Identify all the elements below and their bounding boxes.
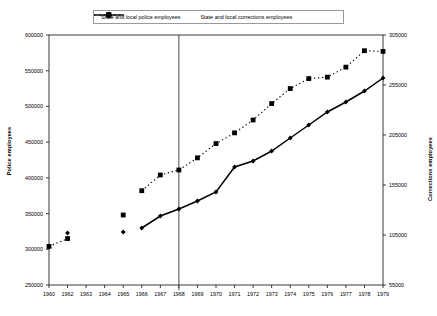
y-left-tick-label: 300000 — [9, 246, 43, 252]
data-point-marker — [306, 76, 311, 81]
y-right-tick-label: 55000 — [389, 282, 423, 288]
data-point-marker — [362, 48, 367, 53]
data-point-marker — [195, 155, 200, 160]
data-point-marker — [121, 230, 126, 235]
data-point-marker — [214, 141, 219, 146]
data-point-marker — [325, 75, 330, 80]
y-right-tick-label: 155000 — [389, 182, 423, 188]
data-point-marker — [381, 49, 386, 54]
data-point-marker — [47, 244, 52, 249]
chart-container: State and local police employees State a… — [0, 0, 437, 316]
data-point-marker — [251, 118, 256, 123]
data-point-marker — [288, 86, 293, 91]
plot-frame — [49, 35, 383, 285]
y-left-tick-label: 250000 — [9, 282, 43, 288]
y-right-tick-label: 205000 — [389, 132, 423, 138]
y-left-tick-label: 500000 — [9, 103, 43, 109]
chart-plot-area — [0, 0, 437, 316]
data-point-marker — [158, 173, 163, 178]
data-point-marker — [176, 168, 181, 173]
data-point-marker — [195, 199, 200, 204]
y-left-tick-label: 600000 — [9, 32, 43, 38]
y-left-tick-label: 450000 — [9, 139, 43, 145]
x-tick-label: 1979 — [372, 291, 394, 297]
y-right-tick-label: 305000 — [389, 32, 423, 38]
data-point-marker — [269, 101, 274, 106]
y-left-tick-label: 550000 — [9, 68, 43, 74]
y-left-tick-label: 400000 — [9, 175, 43, 181]
data-point-marker — [176, 207, 181, 212]
data-point-marker — [343, 65, 348, 70]
data-point-marker — [139, 188, 144, 193]
data-point-marker — [121, 213, 126, 218]
y-left-tick-label: 350000 — [9, 211, 43, 217]
y-right-tick-label: 105000 — [389, 232, 423, 238]
chart-series — [47, 48, 386, 249]
axis-ticks — [46, 35, 386, 288]
data-point-marker — [65, 231, 70, 236]
data-point-marker — [232, 130, 237, 135]
y-right-tick-label: 255000 — [389, 82, 423, 88]
data-point-marker — [65, 236, 70, 241]
